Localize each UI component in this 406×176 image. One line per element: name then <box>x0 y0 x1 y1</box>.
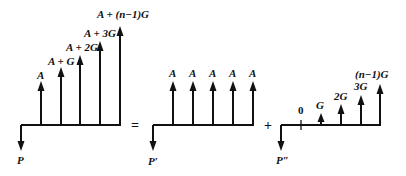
flow-label: (n−1)G <box>355 68 389 81</box>
flow-label: A <box>188 67 196 79</box>
flow-label: G <box>316 99 324 111</box>
flow-label: A + 2G <box>65 41 98 53</box>
cash-flow-arrow-icon <box>190 81 197 125</box>
present-value-arrow-icon <box>150 125 157 151</box>
plus-operator: + <box>264 118 272 133</box>
flow-label: 2G <box>333 90 348 102</box>
present-value-arrow-icon <box>278 125 285 151</box>
present-value-label: P <box>17 154 24 166</box>
flow-label: 3G <box>353 80 368 92</box>
cash-flow-arrow-icon <box>38 81 45 125</box>
cash-flow-arrow-icon <box>58 67 65 125</box>
flow-label: A <box>208 67 216 79</box>
cash-flow-arrow-icon <box>358 95 365 125</box>
flow-label: A <box>168 67 176 79</box>
cash-flow-arrow-icon <box>170 81 177 125</box>
cash-flow-arrow-icon <box>77 55 84 125</box>
flow-label: A + (n−1)G <box>96 8 149 21</box>
cash-flow-diagram: P A A + G A + 2G A + 3G A + (n−1)G = P′ <box>0 0 406 176</box>
cash-flow-arrow-icon <box>250 81 257 125</box>
cash-flow-arrow-icon <box>210 81 217 125</box>
flow-label: A <box>36 69 44 81</box>
cash-flow-arrow-icon <box>377 84 384 125</box>
cash-flow-arrow-icon <box>117 26 124 125</box>
present-value-label: P″ <box>276 154 289 166</box>
cash-flow-arrow-icon <box>318 113 325 125</box>
present-value-arrow-icon <box>18 125 25 151</box>
panel-gradient-series-total: P A A + G A + 2G A + 3G A + (n−1)G <box>17 8 149 166</box>
cash-flow-arrow-icon <box>338 104 345 125</box>
flow-label: 0 <box>298 104 304 116</box>
panel-uniform-series: P′ A A A A A <box>148 67 257 167</box>
present-value-label: P′ <box>148 155 158 167</box>
cash-flow-arrow-icon <box>97 41 104 125</box>
flow-label: A + G <box>47 55 74 67</box>
equals-operator: = <box>131 118 139 133</box>
panel-arithmetic-gradient: P″ 0 G 2G 3G (n−1)G <box>276 68 389 166</box>
flow-label: A <box>248 67 256 79</box>
flow-label: A <box>228 67 236 79</box>
flow-label: A + 3G <box>83 27 116 39</box>
cash-flow-arrow-icon <box>230 81 237 125</box>
